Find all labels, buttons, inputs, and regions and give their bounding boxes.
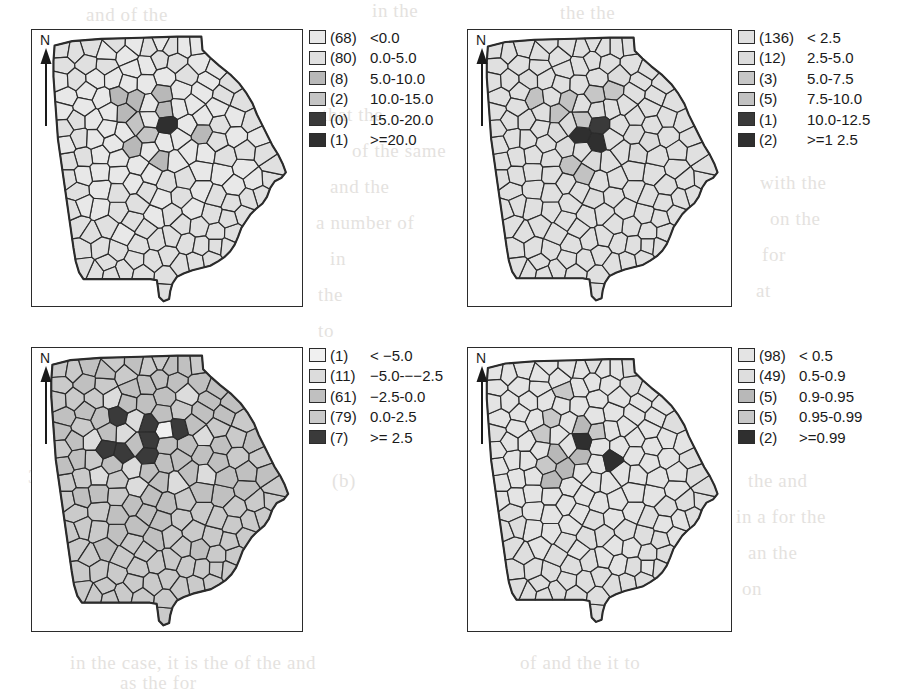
legend-range: < 0.5 [799, 348, 833, 363]
legend-row: (98) < 0.5 [738, 345, 862, 366]
bleedthrough-text: on [742, 578, 762, 600]
north-label: N [39, 351, 61, 365]
north-arrow-icon [39, 48, 53, 126]
legend-row: (49) 0.5-0.9 [738, 366, 862, 387]
georgia-county-map-bottom-left [32, 348, 304, 633]
legend-swatch [738, 71, 755, 85]
bleedthrough-text: at [756, 280, 771, 302]
legend-range: < −5.0 [370, 348, 413, 363]
legend-row: (68) <0.0 [309, 27, 433, 48]
bleedthrough-text: in a for the [736, 506, 826, 528]
map-frame-top-right: N [467, 29, 732, 307]
legend-row: (3) 5.0-7.5 [738, 68, 870, 89]
legend-swatch [309, 92, 326, 106]
bleedthrough-text: (b) [332, 470, 356, 492]
county-polygon [88, 485, 109, 503]
legend-top-left: (68) <0.0 (80) 0.0-5.0 (8) 5.0-10.0 (2) … [309, 27, 433, 150]
legend-range: >=0.99 [799, 430, 846, 445]
legend-swatch [309, 430, 326, 444]
bleedthrough-text: in [330, 248, 346, 270]
legend-count: (8) [330, 71, 370, 86]
legend-range: −2.5-0.0 [370, 389, 425, 404]
county-polygon [523, 485, 543, 503]
legend-row: (2) >=0.99 [738, 427, 862, 448]
legend-swatch [738, 51, 755, 65]
legend-swatch [309, 30, 326, 44]
legend-top-right: (136) < 2.5 (12) 2.5-5.0 (3) 5.0-7.5 (5)… [738, 27, 870, 150]
north-arrow-icon [475, 366, 489, 444]
north-arrow-icon [475, 48, 489, 126]
legend-range: < 2.5 [807, 30, 841, 45]
legend-row: (1) >=20.0 [309, 130, 433, 151]
legend-count: (79) [330, 409, 370, 424]
legend-swatch [738, 389, 755, 403]
legend-count: (80) [330, 50, 370, 65]
legend-row: (5) 0.9-0.95 [738, 386, 862, 407]
bleedthrough-text: the and [748, 470, 808, 492]
bleedthrough-text: as the for [120, 672, 197, 689]
legend-range: <0.0 [370, 30, 400, 45]
legend-row: (7) >= 2.5 [309, 427, 443, 448]
north-label: N [39, 33, 61, 47]
bleedthrough-text: and of the [86, 4, 168, 26]
bleedthrough-text: on the [770, 208, 821, 230]
legend-row: (8) 5.0-10.0 [309, 68, 433, 89]
legend-range: 10.0-15.0 [370, 91, 433, 106]
map-frame-top-left: N [31, 29, 303, 307]
georgia-county-map-top-right [468, 30, 733, 308]
legend-range: 0.0-5.0 [370, 50, 417, 65]
legend-range: >=20.0 [370, 132, 417, 147]
bleedthrough-text: with the [760, 172, 827, 194]
legend-count: (1) [330, 348, 370, 363]
legend-swatch [309, 71, 326, 85]
legend-swatch [738, 30, 755, 44]
legend-count: (7) [330, 430, 370, 445]
legend-range: 10.0-12.5 [807, 112, 870, 127]
legend-count: (2) [759, 132, 807, 147]
legend-count: (0) [330, 112, 370, 127]
legend-swatch [309, 410, 326, 424]
legend-swatch [309, 112, 326, 126]
legend-swatch [738, 133, 755, 147]
north-arrow-group: N [475, 33, 497, 126]
legend-swatch [309, 348, 326, 362]
legend-range: 2.5-5.0 [807, 50, 854, 65]
north-arrow-group: N [475, 351, 497, 444]
legend-range: >= 2.5 [370, 430, 413, 445]
north-label: N [475, 351, 497, 365]
legend-count: (12) [759, 50, 807, 65]
legend-count: (5) [759, 409, 799, 424]
georgia-county-map-top-left [32, 30, 304, 308]
legend-row: (1) < −5.0 [309, 345, 443, 366]
bleedthrough-text: to [318, 320, 334, 342]
legend-swatch [309, 369, 326, 383]
north-arrow-group: N [39, 33, 61, 126]
legend-range: >=1 2.5 [807, 132, 858, 147]
legend-count: (11) [330, 368, 370, 383]
legend-count: (68) [330, 30, 370, 45]
county-layer [487, 359, 718, 622]
county-layer [51, 356, 288, 626]
legend-row: (1) 10.0-12.5 [738, 109, 870, 130]
georgia-county-map-bottom-right [468, 348, 733, 633]
legend-count: (2) [330, 91, 370, 106]
north-arrow-group: N [39, 351, 61, 444]
legend-row: (79) 0.0-2.5 [309, 407, 443, 428]
bleedthrough-text: the [318, 284, 343, 306]
north-label: N [475, 33, 497, 47]
legend-count: (3) [759, 71, 807, 86]
legend-swatch [738, 410, 755, 424]
legend-count: (49) [759, 368, 799, 383]
legend-count: (2) [759, 430, 799, 445]
legend-swatch [309, 389, 326, 403]
legend-count: (1) [330, 132, 370, 147]
legend-range: 0.95-0.99 [799, 409, 862, 424]
county-polygon [523, 163, 543, 181]
legend-range: −5.0-−−2.5 [370, 368, 443, 383]
legend-range: 5.0-10.0 [370, 71, 425, 86]
legend-swatch [738, 430, 755, 444]
north-arrow-icon [39, 366, 53, 444]
legend-row: (80) 0.0-5.0 [309, 48, 433, 69]
bleedthrough-text: and the [330, 176, 390, 198]
legend-row: (2) 10.0-15.0 [309, 89, 433, 110]
